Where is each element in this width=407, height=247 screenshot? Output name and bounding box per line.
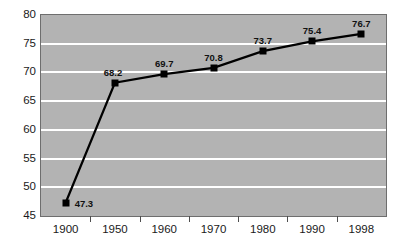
data-point-label: 73.7 xyxy=(254,36,273,46)
x-tick-mark xyxy=(90,216,91,222)
data-point-marker xyxy=(111,79,118,86)
data-point-label: 76.7 xyxy=(352,19,371,29)
data-point-marker xyxy=(309,38,316,45)
x-tick-label: 1990 xyxy=(299,224,325,236)
y-tick-label: 55 xyxy=(2,153,36,165)
y-tick-label: 70 xyxy=(2,67,36,79)
y-tick-label: 80 xyxy=(2,9,36,21)
x-tick-label: 1980 xyxy=(250,224,276,236)
x-tick-mark xyxy=(287,216,288,222)
gridline xyxy=(41,186,386,188)
x-tick-label: 1970 xyxy=(201,224,227,236)
x-tick-label: 1900 xyxy=(53,224,79,236)
plot-area xyxy=(40,14,387,217)
data-point-label: 68.2 xyxy=(104,68,123,78)
gridline xyxy=(41,43,386,45)
x-axis: 1900195019601970198019901998 xyxy=(41,224,386,244)
y-tick-label: 65 xyxy=(2,95,36,107)
data-point-label: 70.8 xyxy=(204,53,223,63)
y-axis: 4550556065707580 xyxy=(0,0,36,247)
y-tick-label: 75 xyxy=(2,38,36,50)
y-tick-label: 45 xyxy=(2,210,36,222)
line-chart: 4550556065707580 47.368.269.770.873.775.… xyxy=(0,0,407,247)
x-tick-label: 1950 xyxy=(102,224,128,236)
gridline xyxy=(41,129,386,131)
data-point-marker xyxy=(358,30,365,37)
data-point-label: 47.3 xyxy=(75,199,94,209)
data-point-marker xyxy=(210,64,217,71)
x-tick-label: 1998 xyxy=(349,224,375,236)
x-tick-label: 1960 xyxy=(151,224,177,236)
data-point-marker xyxy=(161,71,168,78)
data-point-marker xyxy=(259,48,266,55)
x-tick-mark xyxy=(189,216,190,222)
x-tick-mark xyxy=(238,216,239,222)
x-tick-mark xyxy=(337,216,338,222)
x-tick-mark xyxy=(140,216,141,222)
y-tick-label: 60 xyxy=(2,124,36,136)
data-point-label: 75.4 xyxy=(303,26,322,36)
y-tick-label: 50 xyxy=(2,182,36,194)
gridline xyxy=(41,71,386,73)
gridline xyxy=(41,158,386,160)
gridline xyxy=(41,100,386,102)
data-point-marker xyxy=(62,199,69,206)
data-point-label: 69.7 xyxy=(155,59,174,69)
